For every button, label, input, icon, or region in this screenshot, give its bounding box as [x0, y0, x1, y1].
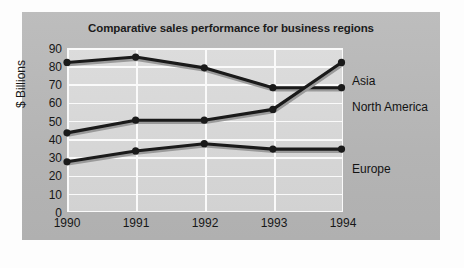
series-group — [63, 53, 345, 165]
chart-panel: Comparative sales performance for busine… — [22, 12, 440, 240]
series-label-europe: Europe — [352, 163, 391, 175]
series-shadow — [68, 59, 343, 90]
data-point-marker — [269, 106, 276, 113]
data-point-marker — [201, 64, 208, 71]
data-point-marker — [338, 59, 345, 66]
data-point-marker — [269, 146, 276, 153]
series-label-north-america: North America — [352, 101, 428, 113]
data-point-marker — [201, 117, 208, 124]
data-point-marker — [63, 158, 70, 165]
data-lines — [22, 12, 440, 240]
data-point-marker — [338, 146, 345, 153]
data-point-marker — [338, 84, 345, 91]
chart-figure: Comparative sales performance for busine… — [0, 0, 464, 268]
data-point-marker — [132, 53, 139, 60]
data-point-marker — [63, 129, 70, 136]
data-point-marker — [132, 117, 139, 124]
data-point-marker — [269, 84, 276, 91]
series-label-asia: Asia — [352, 75, 375, 87]
data-point-marker — [63, 59, 70, 66]
data-point-marker — [132, 147, 139, 154]
data-point-marker — [201, 140, 208, 147]
